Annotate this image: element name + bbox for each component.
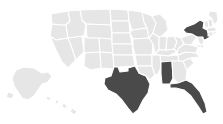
state-SD[interactable] [111, 21, 130, 33]
state-AL[interactable] [161, 61, 173, 84]
us-choropleth-map [0, 0, 223, 124]
state-IA[interactable] [130, 28, 149, 39]
state-WA[interactable] [51, 11, 70, 25]
state-AR[interactable] [135, 55, 152, 66]
state-WY[interactable] [86, 24, 112, 39]
state-CT[interactable] [208, 32, 213, 36]
state-AZ[interactable] [84, 52, 101, 70]
us-map-svg [0, 0, 223, 124]
state-MT[interactable] [80, 9, 111, 25]
state-OK[interactable] [113, 55, 135, 67]
state-NM[interactable] [100, 52, 114, 69]
state-CO[interactable] [99, 38, 113, 53]
state-KS[interactable] [112, 44, 133, 55]
state-ND[interactable] [110, 9, 129, 21]
state-UT[interactable] [84, 36, 100, 53]
state-MO[interactable] [133, 38, 153, 55]
state-NE[interactable] [112, 33, 132, 44]
